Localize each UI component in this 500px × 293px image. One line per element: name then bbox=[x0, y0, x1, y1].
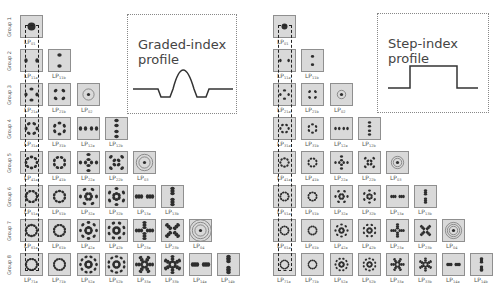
mode-tile bbox=[301, 253, 324, 276]
mode-label: LP71a bbox=[24, 277, 38, 285]
mode-tile bbox=[48, 219, 71, 242]
mode-label: LP61b bbox=[52, 243, 66, 251]
mode-tile bbox=[48, 253, 71, 276]
mode-tile bbox=[301, 185, 324, 208]
mode-label: LP04 bbox=[446, 243, 457, 251]
mode-tile bbox=[330, 253, 353, 276]
mode-pattern-icon bbox=[49, 152, 70, 173]
mode-pattern-icon bbox=[78, 254, 99, 275]
mode-pattern-icon bbox=[387, 152, 408, 173]
mode-label: LP52a bbox=[81, 277, 95, 285]
mode-pattern-icon bbox=[471, 254, 492, 275]
mode-tile bbox=[189, 219, 212, 242]
mode-pattern-icon bbox=[359, 220, 380, 241]
mode-label: LP21b bbox=[52, 107, 66, 115]
mode-label: LP03 bbox=[390, 175, 401, 183]
mode-tile bbox=[217, 253, 240, 276]
mode-tile bbox=[105, 117, 128, 140]
mode-label: LP42b bbox=[362, 243, 376, 251]
mode-pattern-icon bbox=[78, 220, 99, 241]
mode-tile bbox=[358, 117, 381, 140]
mode-label: LP12b bbox=[109, 141, 123, 149]
mode-pattern-icon bbox=[387, 186, 408, 207]
mode-label: LP22b bbox=[362, 175, 376, 183]
mode-label: LP12a bbox=[81, 141, 95, 149]
mode-pattern-icon bbox=[359, 186, 380, 207]
mode-tile bbox=[105, 151, 128, 174]
mode-pattern-icon bbox=[443, 254, 464, 275]
group-label: Group 2 bbox=[6, 51, 12, 71]
mode-tile bbox=[77, 117, 100, 140]
mode-label: LP14b bbox=[221, 277, 235, 285]
mode-tile bbox=[358, 185, 381, 208]
mode-tile bbox=[386, 185, 409, 208]
mode-pattern-icon bbox=[359, 152, 380, 173]
group-label: Group 1 bbox=[6, 17, 12, 37]
mode-pattern-icon bbox=[415, 254, 436, 275]
mode-pattern-icon bbox=[134, 186, 155, 207]
mode-tile bbox=[105, 185, 128, 208]
mode-tile bbox=[301, 219, 324, 242]
mode-tile bbox=[301, 49, 324, 72]
mode-tile bbox=[414, 219, 437, 242]
mode-tile bbox=[77, 219, 100, 242]
mode-pattern-icon bbox=[78, 118, 99, 139]
mode-label: LP22a bbox=[81, 175, 95, 183]
mode-tile bbox=[358, 253, 381, 276]
step-index-panel: LP01LP11aLP11bLP21aLP21bLP02LP31aLP31bLP… bbox=[253, 0, 500, 293]
mode-label: LP51b bbox=[305, 209, 319, 217]
step-index-profile-box: Step-indexprofile bbox=[377, 13, 489, 113]
mode-tile bbox=[48, 83, 71, 106]
mode-tile bbox=[133, 151, 156, 174]
group-label: Group 3 bbox=[6, 85, 12, 105]
mode-tile bbox=[330, 185, 353, 208]
mode-tile bbox=[48, 151, 71, 174]
mode-tile bbox=[133, 253, 156, 276]
mode-tile bbox=[48, 117, 71, 140]
mode-tile bbox=[301, 83, 324, 106]
mode-label: LP42a bbox=[81, 243, 95, 251]
mode-tile bbox=[386, 253, 409, 276]
mode-label: LP23b bbox=[418, 243, 432, 251]
mode-tile bbox=[105, 219, 128, 242]
mode-pattern-icon bbox=[302, 186, 323, 207]
mode-label: LP42b bbox=[109, 243, 123, 251]
mode-pattern-icon bbox=[162, 186, 183, 207]
mode-label: LP14b bbox=[474, 277, 488, 285]
mode-tile bbox=[48, 49, 71, 72]
mode-label: LP11b bbox=[52, 73, 66, 81]
mode-label: LP11b bbox=[305, 73, 319, 81]
mode-tile bbox=[442, 253, 465, 276]
mode-label: LP41b bbox=[305, 175, 319, 183]
mode-label: LP21b bbox=[305, 107, 319, 115]
mode-pattern-icon bbox=[49, 50, 70, 71]
mode-tile bbox=[414, 253, 437, 276]
mode-pattern-icon bbox=[78, 84, 99, 105]
mode-pattern-icon bbox=[302, 50, 323, 71]
mode-tile bbox=[161, 253, 184, 276]
mode-label: LP23b bbox=[165, 243, 179, 251]
mode-label: LP02 bbox=[334, 107, 345, 115]
mode-tile bbox=[133, 219, 156, 242]
mode-label: LP02 bbox=[81, 107, 92, 115]
mode-tile bbox=[358, 151, 381, 174]
mode-tile bbox=[77, 253, 100, 276]
mode-label: LP41b bbox=[52, 175, 66, 183]
mode-tile bbox=[330, 83, 353, 106]
mode-pattern-icon bbox=[78, 152, 99, 173]
mode-tile bbox=[414, 185, 437, 208]
mode-pattern-icon bbox=[302, 118, 323, 139]
mode-label: LP14a bbox=[446, 277, 460, 285]
mode-pattern-icon bbox=[190, 220, 211, 241]
graded-index-curve-icon bbox=[128, 55, 238, 105]
mode-label: LP42a bbox=[334, 243, 348, 251]
mode-label: LP03 bbox=[137, 175, 148, 183]
mode-pattern-icon bbox=[49, 186, 70, 207]
mode-label: LP12b bbox=[362, 141, 376, 149]
mode-tile bbox=[77, 151, 100, 174]
mode-label: LP32b bbox=[362, 209, 376, 217]
mode-label: LP13a bbox=[390, 209, 404, 217]
mode-tile bbox=[133, 185, 156, 208]
fundamental-column-highlight bbox=[25, 25, 39, 271]
mode-pattern-icon bbox=[415, 186, 436, 207]
